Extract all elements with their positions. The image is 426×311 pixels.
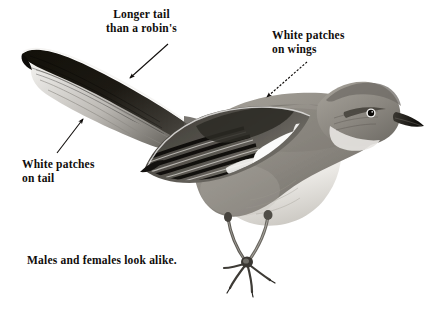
- bird-legs: [224, 210, 275, 297]
- illustration-figure: Longer tail than a robin's White patches…: [0, 0, 426, 311]
- label-white-patches-wings: White patches on wings: [272, 29, 345, 56]
- label-longer-tail: Longer tail than a robin's: [106, 8, 177, 35]
- label-white-patches-tail: White patches on tail: [22, 158, 95, 185]
- label-sexes-alike: Males and females look alike.: [27, 254, 177, 268]
- bird-head: [317, 82, 424, 151]
